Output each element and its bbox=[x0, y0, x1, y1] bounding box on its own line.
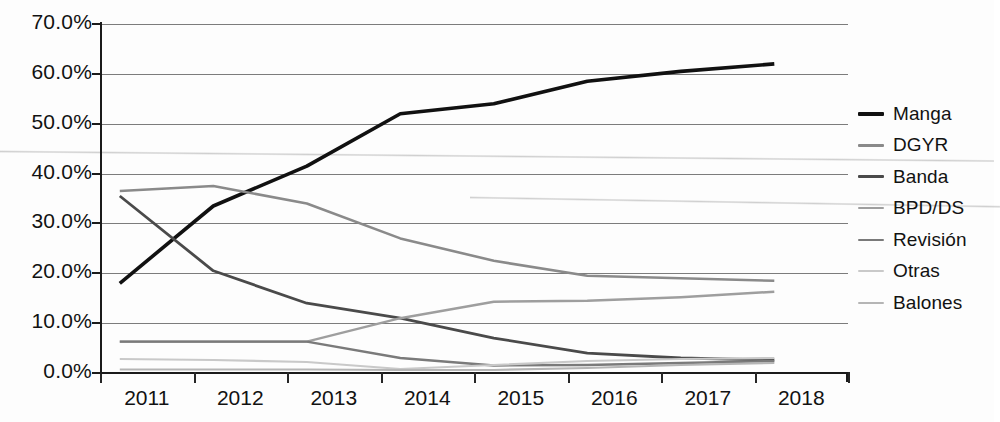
gridline bbox=[100, 223, 848, 224]
legend-line-icon bbox=[858, 270, 884, 272]
legend-item-label: Manga bbox=[893, 103, 952, 125]
legend-item-label: Banda bbox=[893, 166, 948, 188]
legend-item-revisi-n[interactable]: Revisión bbox=[858, 224, 994, 256]
x-axis-tick-label: 2016 bbox=[569, 386, 659, 410]
x-axis-tick bbox=[287, 372, 289, 383]
legend-item-label: BPD/DS bbox=[893, 197, 964, 219]
y-axis-tick bbox=[92, 322, 102, 324]
y-axis-tick bbox=[92, 272, 102, 274]
x-axis-tick-label: 2013 bbox=[289, 386, 379, 410]
x-axis-tick bbox=[194, 372, 196, 383]
y-axis-tick-label: 10.0% bbox=[8, 309, 92, 333]
legend-item-banda[interactable]: Banda bbox=[858, 161, 994, 193]
gridline bbox=[100, 174, 848, 175]
x-axis-tick bbox=[848, 372, 850, 383]
legend-line-icon bbox=[858, 175, 884, 178]
legend-item-balones[interactable]: Balones bbox=[858, 287, 994, 319]
y-axis-tick-label: 70.0% bbox=[8, 10, 92, 34]
y-axis-tick-label: 20.0% bbox=[8, 259, 92, 283]
chart-legend: MangaDGYRBandaBPD/DSRevisiónOtrasBalones bbox=[858, 98, 994, 319]
legend-item-label: DGYR bbox=[893, 134, 948, 156]
gridline bbox=[100, 24, 848, 25]
legend-line-icon bbox=[858, 207, 884, 209]
gridline bbox=[100, 273, 848, 274]
y-axis-tick bbox=[92, 123, 102, 125]
legend-item-manga[interactable]: Manga bbox=[858, 98, 994, 130]
x-axis-tick-label: 2012 bbox=[195, 386, 285, 410]
y-axis-tick-label: 50.0% bbox=[8, 110, 92, 134]
y-axis-tick bbox=[92, 73, 102, 75]
x-axis-tick-label: 2011 bbox=[102, 386, 192, 410]
legend-line-icon bbox=[858, 302, 884, 304]
y-axis-labels: 0.0%10.0%20.0%30.0%40.0%50.0%60.0%70.0% bbox=[0, 0, 92, 422]
x-axis-tick bbox=[568, 372, 570, 383]
x-axis-tick-label: 2017 bbox=[663, 386, 753, 410]
y-axis-tick bbox=[92, 372, 102, 374]
legend-item-label: Balones bbox=[893, 292, 962, 314]
y-axis-tick-label: 60.0% bbox=[8, 60, 92, 84]
x-axis-tick bbox=[474, 372, 476, 383]
legend-item-label: Revisión bbox=[893, 229, 967, 251]
y-axis-tick bbox=[92, 23, 102, 25]
x-axis-tick bbox=[755, 372, 757, 383]
legend-line-icon bbox=[858, 239, 884, 241]
y-axis-tick-label: 0.0% bbox=[8, 359, 92, 383]
x-axis-tick-label: 2018 bbox=[756, 386, 846, 410]
gridline bbox=[100, 124, 848, 125]
legend-item-dgyr[interactable]: DGYR bbox=[858, 130, 994, 162]
legend-line-icon bbox=[858, 112, 884, 116]
legend-item-label: Otras bbox=[893, 260, 940, 282]
x-axis-tick-label: 2015 bbox=[476, 386, 566, 410]
y-axis-tick bbox=[92, 173, 102, 175]
gridline bbox=[100, 74, 848, 75]
x-axis-tick bbox=[661, 372, 663, 383]
x-axis-tick bbox=[381, 372, 383, 383]
y-axis-tick bbox=[92, 222, 102, 224]
gridline bbox=[100, 323, 848, 324]
plot-area bbox=[100, 24, 848, 373]
legend-item-bpd-ds[interactable]: BPD/DS bbox=[858, 193, 994, 225]
legend-line-icon bbox=[858, 144, 884, 147]
y-axis-tick-label: 30.0% bbox=[8, 209, 92, 233]
y-axis-tick-label: 40.0% bbox=[8, 160, 92, 184]
legend-item-otras[interactable]: Otras bbox=[858, 256, 994, 288]
x-axis-tick-label: 2014 bbox=[382, 386, 472, 410]
